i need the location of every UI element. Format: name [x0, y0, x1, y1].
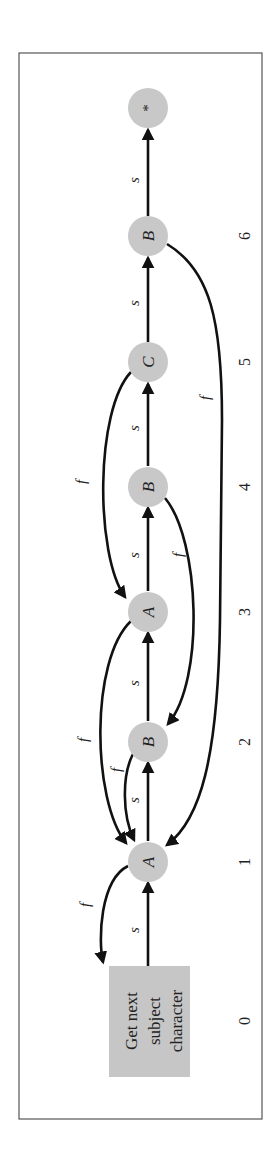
success-label: s: [126, 927, 142, 933]
node-label: A: [139, 856, 158, 868]
node-label: B: [139, 481, 158, 492]
index-label: 5: [236, 358, 253, 366]
index-label: 1: [236, 858, 253, 866]
failure-edge-2-1: [125, 754, 134, 840]
index-label: 4: [236, 483, 253, 491]
success-label: s: [126, 552, 142, 558]
state-node-1: A: [128, 842, 168, 882]
state-node-5: C: [128, 342, 168, 382]
state-node-3: A: [128, 592, 168, 632]
failure-edge-4-2: [165, 498, 194, 724]
index-label: 0: [236, 1017, 253, 1025]
node-label: *: [140, 104, 156, 112]
index-label: 3: [236, 608, 253, 616]
failure-edge-1-0: [101, 866, 128, 962]
failure-label: f: [75, 736, 91, 742]
success-label: s: [126, 177, 142, 183]
index-label: 2: [236, 738, 253, 746]
state-node-final: *: [128, 88, 168, 128]
success-label: s: [126, 425, 142, 431]
failure-label: f: [77, 901, 93, 907]
failure-label: f: [197, 394, 213, 400]
automaton-diagram: Get next subject character s s s s s s s: [0, 0, 271, 1174]
failure-label: f: [170, 551, 186, 557]
start-box-line-1: Get next: [122, 992, 141, 1050]
state-node-6: B: [128, 216, 168, 256]
node-label: B: [139, 230, 158, 241]
index-label: 6: [236, 232, 253, 240]
start-box-line-2: subject: [145, 997, 164, 1045]
node-label: B: [139, 736, 158, 747]
failure-edge-6-1: [167, 244, 222, 845]
start-box-line-3: character: [167, 990, 186, 1053]
failure-label: f: [73, 478, 89, 484]
node-label: A: [139, 606, 158, 618]
node-label: C: [139, 356, 158, 368]
state-node-4: B: [128, 467, 168, 507]
success-label: s: [126, 680, 142, 686]
index-labels: 0 1 2 3 4 5 6: [236, 232, 253, 1025]
failure-label: f: [108, 766, 124, 772]
success-label: s: [126, 300, 142, 306]
diagram-frame: [19, 53, 262, 1119]
start-box: Get next subject character: [109, 966, 190, 1077]
state-node-2: B: [128, 722, 168, 762]
failure-edge-5-3: [103, 372, 131, 597]
success-label: s: [126, 797, 142, 803]
